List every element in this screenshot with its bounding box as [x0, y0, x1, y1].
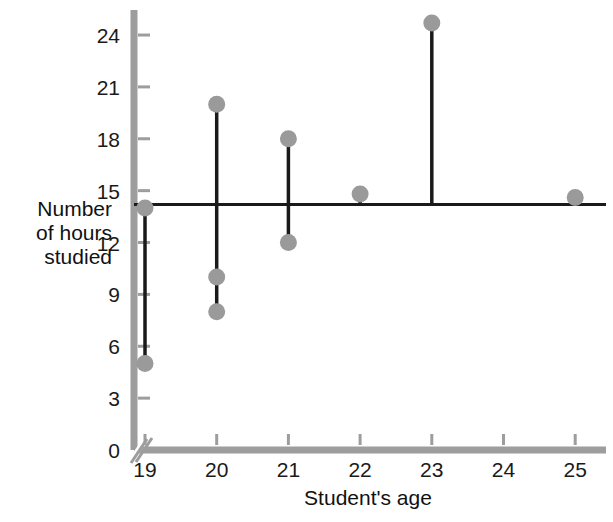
y-tick-label: 0 [108, 439, 120, 462]
data-point [352, 186, 369, 203]
x-axis-title: Student's age [304, 486, 432, 509]
x-tick-label: 20 [205, 458, 228, 481]
data-point [280, 234, 297, 251]
x-tick-label: 23 [420, 458, 443, 481]
y-axis: 03691215182124 [97, 10, 150, 462]
x-axis: 19202122232425 [130, 434, 606, 481]
y-tick-label: 3 [108, 387, 120, 410]
scatterplot-figure: Number of hours studied Student's age 03… [0, 0, 613, 522]
x-tick-label: 22 [348, 458, 371, 481]
chart-canvas: Number of hours studied Student's age 03… [0, 0, 613, 522]
y-tick-label: 24 [97, 24, 121, 47]
data-point [280, 130, 297, 147]
x-tick-label: 19 [133, 458, 156, 481]
y-tick-label: 6 [108, 335, 120, 358]
y-tick-label: 15 [97, 180, 120, 203]
y-tick-label: 21 [97, 76, 120, 99]
data-point [208, 303, 225, 320]
data-point [567, 189, 584, 206]
x-tick-label: 24 [492, 458, 516, 481]
y-tick-label: 9 [108, 283, 120, 306]
data-point [208, 269, 225, 286]
plot-area [134, 14, 606, 372]
data-point [208, 96, 225, 113]
x-tick-label: 25 [564, 458, 587, 481]
data-point [137, 355, 154, 372]
data-point [423, 14, 440, 31]
y-tick-label: 12 [97, 232, 120, 255]
y-tick-label: 18 [97, 128, 120, 151]
data-point [137, 199, 154, 216]
x-tick-label: 21 [277, 458, 300, 481]
